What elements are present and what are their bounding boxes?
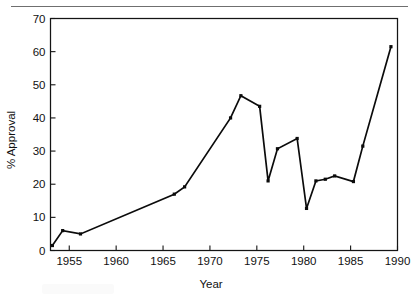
data-point-marker xyxy=(173,193,176,196)
data-point-marker xyxy=(333,174,336,177)
x-tick-label-1990: 1990 xyxy=(385,255,411,267)
series-line-0 xyxy=(52,47,391,246)
chart-canvas: 19551960196519701975198019851990 0102030… xyxy=(0,0,415,296)
x-tick-label-1960: 1960 xyxy=(103,255,129,267)
data-point-marker xyxy=(79,232,82,235)
data-point-marker xyxy=(296,137,299,140)
x-tick-label-1985: 1985 xyxy=(338,255,364,267)
scan-artifact xyxy=(42,284,114,294)
data-point-marker xyxy=(361,145,364,148)
y-tick-label-10: 10 xyxy=(33,211,46,223)
x-tick-label-1955: 1955 xyxy=(56,255,82,267)
axis-ticks-group xyxy=(51,19,398,251)
data-markers-group xyxy=(51,45,393,247)
data-point-marker xyxy=(61,229,64,232)
x-tick-labels-group: 19551960196519701975198019851990 xyxy=(56,255,410,267)
y-tick-label-0: 0 xyxy=(39,245,45,257)
x-tick-label-1970: 1970 xyxy=(197,255,223,267)
x-axis-title: Year xyxy=(199,278,222,290)
y-tick-labels-group: 010203040506070 xyxy=(33,13,46,257)
x-tick-label-1975: 1975 xyxy=(244,255,270,267)
y-tick-label-40: 40 xyxy=(33,112,46,124)
y-tick-label-50: 50 xyxy=(33,79,46,91)
axes-group xyxy=(51,19,398,251)
data-point-marker xyxy=(305,207,308,210)
y-tick-label-60: 60 xyxy=(33,46,46,58)
data-point-marker xyxy=(389,45,392,48)
data-point-marker xyxy=(352,180,355,183)
y-tick-label-30: 30 xyxy=(33,145,46,157)
y-tick-label-70: 70 xyxy=(33,13,46,25)
figure-container: 19551960196519701975198019851990 0102030… xyxy=(0,0,415,296)
y-axis-title: % Approval xyxy=(5,111,17,169)
data-point-marker xyxy=(229,116,232,119)
data-point-marker xyxy=(314,179,317,182)
x-tick-label-1965: 1965 xyxy=(150,255,176,267)
data-series-group xyxy=(52,47,391,246)
data-point-marker xyxy=(276,147,279,150)
x-tick-label-1980: 1980 xyxy=(291,255,317,267)
data-point-marker xyxy=(51,244,54,247)
data-point-marker xyxy=(266,179,269,182)
y-tick-label-20: 20 xyxy=(33,178,46,190)
data-point-marker xyxy=(183,185,186,188)
data-point-marker xyxy=(258,105,261,108)
data-point-marker xyxy=(239,94,242,97)
data-point-marker xyxy=(324,178,327,181)
plot-frame xyxy=(51,19,398,251)
